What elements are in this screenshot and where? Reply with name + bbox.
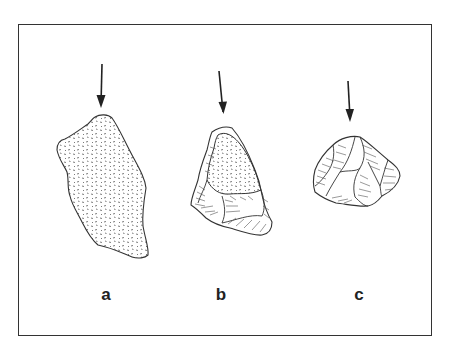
label-b: b <box>211 285 231 305</box>
specimen-a-drawing <box>57 115 148 258</box>
arrow-a-icon <box>97 64 106 108</box>
label-c: c <box>349 285 369 305</box>
label-a: a <box>96 285 116 305</box>
specimen-b-drawing <box>191 127 272 235</box>
arrow-c-icon <box>346 81 355 122</box>
specimen-c-drawing <box>314 136 401 206</box>
arrow-b-icon <box>219 71 228 114</box>
